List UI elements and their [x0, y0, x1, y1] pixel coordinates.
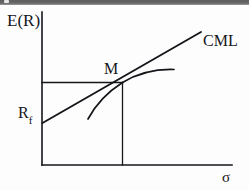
- risk-free-rate-subscript: f: [29, 114, 33, 126]
- efficient-frontier-curve: [88, 69, 174, 119]
- x-axis-label: σ: [222, 170, 230, 185]
- y-axis-label: E(R): [7, 12, 40, 29]
- cml-label: CML: [203, 33, 238, 49]
- risk-free-rate-letter: R: [18, 104, 29, 121]
- risk-free-rate-label: Rf: [18, 105, 32, 124]
- capital-market-line: [43, 32, 202, 123]
- market-portfolio-label: M: [104, 61, 118, 77]
- figure-canvas: E(R) σ CML M Rf: [0, 0, 249, 190]
